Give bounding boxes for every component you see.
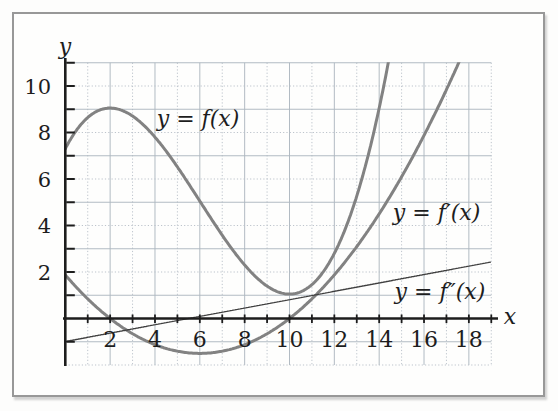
- x-tick-label: 6: [193, 327, 207, 352]
- x-tick-label: 8: [238, 327, 252, 352]
- x-tick-label: 16: [410, 327, 438, 352]
- function-graph: 24681012141618246810xyy = f(x)y = f′(x)y…: [0, 0, 558, 411]
- labels: 24681012141618246810xyy = f(x)y = f′(x)y…: [24, 34, 517, 352]
- x-tick-label: 12: [320, 327, 348, 352]
- x-tick-label: 2: [103, 327, 117, 352]
- y-tick-label: 8: [38, 121, 51, 145]
- y-tick-label: 6: [38, 168, 51, 192]
- curve-label-f-prime: y = f′(x): [392, 200, 481, 225]
- x-tick-label: 14: [365, 327, 393, 352]
- y-tick-label: 2: [38, 261, 51, 285]
- x-tick-label: 10: [276, 327, 304, 352]
- y-tick-label: 10: [24, 75, 51, 99]
- page: 24681012141618246810xyy = f(x)y = f′(x)y…: [0, 0, 558, 411]
- x-axis-label: x: [504, 304, 517, 329]
- y-tick-label: 4: [38, 214, 51, 238]
- x-tick-label: 18: [455, 327, 483, 352]
- curve-label-f: y = f(x): [156, 106, 240, 131]
- x-tick-label: 4: [148, 327, 162, 352]
- curve-label-f-double-prime: y = f″(x): [394, 279, 486, 304]
- curve-f: [65, 0, 401, 294]
- y-axis-label: y: [58, 34, 72, 59]
